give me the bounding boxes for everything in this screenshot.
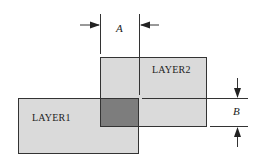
layer2-label: LAYER2 (152, 64, 191, 75)
overlap-region (101, 99, 139, 127)
dimension-a-label: A (116, 22, 123, 34)
layer-overlap-diagram (0, 0, 263, 161)
dimension-b-label: B (233, 105, 240, 117)
layer1-label: LAYER1 (32, 112, 71, 123)
